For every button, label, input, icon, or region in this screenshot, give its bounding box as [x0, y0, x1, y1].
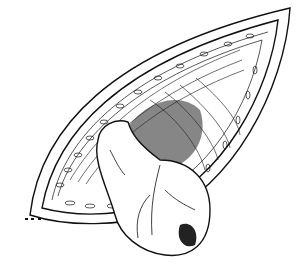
illustration: [0, 0, 298, 273]
scale-marks: [25, 218, 41, 220]
surgical-illustration: [0, 0, 298, 273]
